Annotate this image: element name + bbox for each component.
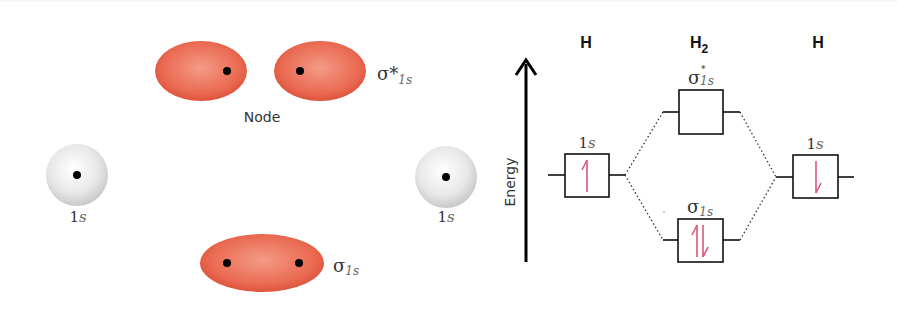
level-left-1s: 1s bbox=[548, 134, 625, 197]
antibonding-lobe-left bbox=[155, 41, 247, 101]
level-label: σ1s bbox=[687, 196, 713, 219]
nucleus-dot bbox=[223, 67, 231, 75]
level-sigma-star-1s: σ * 1s bbox=[663, 64, 740, 134]
level-label: 1s bbox=[578, 134, 596, 152]
level-right-1s: 1s bbox=[776, 135, 854, 198]
antibonding-orbital: σ*1s Node bbox=[155, 41, 412, 125]
nucleus-dot bbox=[442, 173, 450, 181]
nucleus-dot bbox=[73, 171, 81, 179]
right-1s-orbital: 1s bbox=[415, 146, 477, 226]
orbital-box bbox=[678, 219, 723, 262]
correlation-line bbox=[625, 112, 663, 175]
level-label-star: * bbox=[701, 64, 706, 74]
speck bbox=[663, 211, 665, 213]
nucleus-dot bbox=[295, 259, 303, 267]
correlation-line bbox=[625, 175, 663, 240]
antibonding-label: σ*1s bbox=[377, 63, 412, 87]
column-header-h-right: H bbox=[812, 34, 824, 51]
level-sigma-1s: σ1s bbox=[663, 196, 740, 262]
bonding-orbital: σ1s bbox=[200, 234, 359, 292]
column-header-h2: H2 bbox=[690, 34, 709, 56]
left-1s-label: 1s bbox=[69, 208, 87, 226]
energy-axis-label: Energy bbox=[502, 157, 518, 206]
nucleus-dot bbox=[223, 259, 231, 267]
molecular-orbital-diagram: σ*1s Node 1s 1s σ1s Energy H H2 H bbox=[0, 0, 897, 309]
orbital-box bbox=[679, 90, 723, 134]
level-label: 1s bbox=[806, 135, 824, 153]
nucleus-dot bbox=[296, 67, 304, 75]
bonding-label: σ1s bbox=[333, 255, 359, 278]
energy-level-diagram: Energy H H2 H 1s σ bbox=[502, 34, 854, 262]
correlation-line bbox=[740, 177, 776, 240]
left-1s-orbital: 1s bbox=[46, 144, 108, 226]
right-1s-label: 1s bbox=[437, 208, 455, 226]
node-label: Node bbox=[244, 109, 281, 125]
level-label-subscript: 1s bbox=[700, 74, 714, 88]
antibonding-lobe-right bbox=[274, 41, 366, 101]
column-header-h-left: H bbox=[580, 34, 592, 51]
correlation-line bbox=[740, 112, 776, 177]
level-label: σ bbox=[688, 67, 700, 88]
bonding-lobe bbox=[200, 234, 324, 292]
